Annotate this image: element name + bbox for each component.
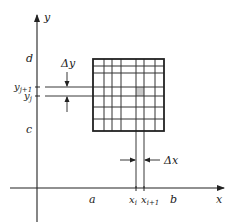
b-label: b xyxy=(170,193,177,206)
delta-x-label: Δx xyxy=(163,154,179,167)
shaded-cell xyxy=(136,87,144,96)
delta-y-label: Δy xyxy=(60,57,76,70)
xi1-label: xi+1 xyxy=(141,194,159,207)
diagram-canvas: y x d c yj+1 yj a xi xi+1 b Δy Δx xyxy=(0,0,238,224)
grid-lines xyxy=(93,59,164,131)
a-label: a xyxy=(89,193,96,206)
axis-ticks xyxy=(35,87,144,191)
xi-label: xi xyxy=(129,194,137,207)
diagram-svg: y x d c yj+1 yj a xi xi+1 b Δy Δx xyxy=(0,0,238,224)
c-label: c xyxy=(26,123,32,136)
d-label: d xyxy=(26,52,33,65)
y-axis-label: y xyxy=(43,11,51,24)
x-axis-label: x xyxy=(216,193,223,206)
